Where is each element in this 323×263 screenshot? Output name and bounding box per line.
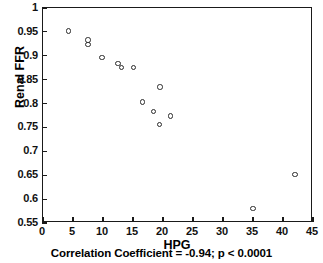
scatter-plot-figure: 051015202530354045 0.550.60.650.70.750.8… [0,0,323,263]
x-tick-mark [72,217,73,222]
x-tick-mark [192,217,193,222]
x-tick-mark [252,217,253,222]
x-tick-label: 45 [292,225,323,237]
data-point [119,65,124,70]
y-tick-mark [42,7,47,8]
y-tick-mark [42,79,47,80]
y-tick-mark [42,55,47,56]
data-point [292,172,297,177]
x-tick-mark [132,217,133,222]
x-tick-mark [282,217,283,222]
y-tick-mark [42,31,47,32]
y-tick-mark [42,127,47,128]
y-tick-mark [42,222,47,223]
data-points-layer [43,8,311,221]
chart-caption: Correlation Coefficient = -0.94; p < 0.0… [0,247,323,259]
y-tick-label: 0.65 [0,168,38,180]
x-tick-mark [102,217,103,222]
y-tick-mark [42,103,47,104]
data-point [66,28,71,33]
data-point [131,65,136,70]
data-point [99,55,104,60]
y-tick-mark [42,151,47,152]
data-point [151,109,156,114]
x-tick-mark [222,217,223,222]
y-tick-label: 0.55 [0,216,38,228]
y-axis-title: Renal FFR [13,17,27,137]
x-tick-mark [162,217,163,222]
plot-area [42,7,312,222]
x-tick-mark [42,217,43,222]
data-point [140,99,145,104]
x-tick-mark [312,217,313,222]
y-tick-label: 0.7 [0,144,38,156]
data-point [157,84,162,89]
y-tick-label: 0.6 [0,192,38,204]
y-tick-mark [42,199,47,200]
data-point [250,206,255,211]
data-point [85,42,90,47]
y-tick-label: 1 [0,1,38,13]
data-point [157,122,162,127]
data-point [168,113,173,118]
y-tick-mark [42,175,47,176]
